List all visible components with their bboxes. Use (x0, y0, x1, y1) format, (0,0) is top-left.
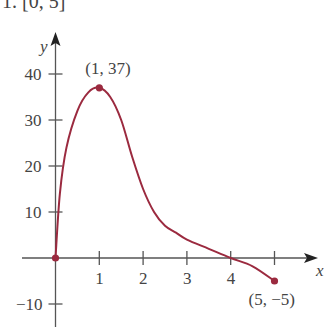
x-tick-label: 4 (227, 270, 236, 287)
highlighted-points (52, 84, 278, 284)
y-tick-label: 10 (25, 204, 42, 221)
data-point-marker (271, 277, 278, 284)
point-label: (5, −5) (249, 291, 295, 308)
y-tick-label: 40 (25, 66, 42, 83)
x-tick-label: 3 (183, 270, 192, 287)
x-tick-label: 2 (139, 270, 148, 287)
point-label: (1, 37) (85, 60, 130, 77)
y-tick-label: 30 (25, 112, 42, 129)
x-axis-label: x (316, 262, 324, 279)
data-point-marker (96, 84, 103, 91)
data-point-marker (52, 254, 59, 261)
function-curve (56, 88, 275, 281)
y-axis-label: y (40, 38, 48, 55)
chart-canvas (0, 0, 330, 327)
y-tick-label: −10 (16, 296, 43, 313)
x-tick-label: 1 (95, 270, 104, 287)
y-tick-label: 20 (25, 158, 42, 175)
